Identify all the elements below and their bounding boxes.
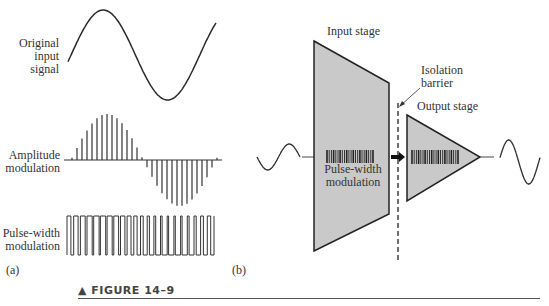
output-stage-title: Output stage xyxy=(417,100,478,113)
figure-canvas xyxy=(0,0,549,306)
panel-a-label: (a) xyxy=(6,264,19,277)
label-original-input-signal: Original input signal xyxy=(19,37,59,76)
label-amplitude-modulation: Amplitude modulation xyxy=(5,149,60,175)
pwm-waveform xyxy=(67,216,214,255)
input-stage-inner-label: Pulse-width modulation xyxy=(318,163,388,189)
isolation-barrier-label: Isolation barrier xyxy=(421,64,463,90)
coupling-arrow-shaft xyxy=(391,155,400,159)
input-sine-wave xyxy=(257,144,300,170)
caption-rule xyxy=(78,298,540,299)
input-stage-block xyxy=(314,41,389,251)
original-sine-wave xyxy=(68,10,216,100)
output-sine-wave xyxy=(500,140,540,184)
label-line: signal xyxy=(19,63,59,76)
label-line: modulation xyxy=(5,162,60,175)
input-stage-title: Input stage xyxy=(327,25,380,38)
panel-b-label: (b) xyxy=(232,264,246,277)
label-line: barrier xyxy=(421,77,463,90)
figure-caption: ▲ FIGURE 14–9 xyxy=(78,284,175,297)
label-line: modulation xyxy=(3,240,60,253)
coupling-arrow-head xyxy=(399,152,405,162)
label-line: modulation xyxy=(318,176,388,189)
label-pulse-width-modulation: Pulse-width modulation xyxy=(3,227,60,253)
